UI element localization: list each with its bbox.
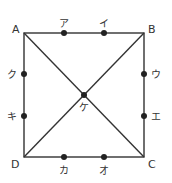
label-point-e: エ [151, 111, 161, 122]
label-point-ki: キ [7, 111, 17, 122]
point-ke-center [81, 92, 87, 98]
label-center-ke: ケ [79, 102, 89, 113]
point-o [101, 154, 107, 160]
square-diagram: A B C D ア イ ウ エ オ カ キ ク ケ [0, 0, 172, 183]
point-ka [61, 154, 67, 160]
point-e [141, 113, 147, 119]
label-vertex-d: D [11, 158, 19, 171]
label-point-o: オ [99, 165, 109, 176]
label-point-a: ア [59, 18, 69, 29]
point-a [61, 30, 67, 36]
point-u [141, 71, 147, 77]
label-point-u: ウ [151, 69, 161, 80]
point-ki [21, 113, 27, 119]
label-vertex-b: B [148, 23, 156, 36]
point-i [101, 30, 107, 36]
point-ku [21, 71, 27, 77]
label-point-i: イ [99, 18, 109, 29]
label-vertex-a: A [12, 23, 20, 36]
label-vertex-c: C [148, 158, 156, 171]
label-point-ku: ク [7, 69, 17, 80]
label-point-ka: カ [59, 165, 69, 176]
